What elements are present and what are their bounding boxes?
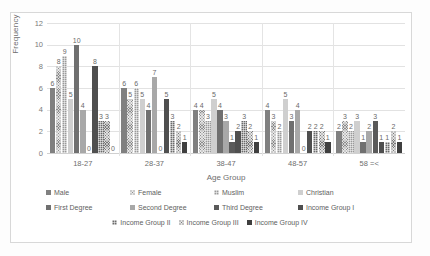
bar[interactable] [247,131,252,153]
bar[interactable] [241,121,246,154]
bar-column[interactable]: 5 [211,23,216,153]
bar[interactable] [235,131,240,153]
bar[interactable] [277,131,282,153]
bar-column[interactable]: 2 [235,23,240,153]
bar[interactable] [176,131,181,153]
bar[interactable] [164,99,169,153]
bar[interactable] [50,88,55,153]
legend-item[interactable]: Income Group IV [247,219,308,226]
bar-column[interactable]: 3 [289,23,294,153]
bar[interactable] [391,131,396,153]
bar-column[interactable]: 1 [325,23,330,153]
bar[interactable] [348,131,353,153]
bar[interactable] [289,121,294,154]
bar-column[interactable]: 7 [152,23,157,153]
bar-column[interactable]: 3 [342,23,347,153]
bar-column[interactable]: 4 [217,23,222,153]
bar-column[interactable]: 9 [62,23,67,153]
bar[interactable] [385,142,390,153]
bar-column[interactable]: 0 [110,23,115,153]
bar-column[interactable]: 4 [295,23,300,153]
bar-column[interactable]: 2 [313,23,318,153]
bar[interactable] [140,99,145,153]
bar[interactable] [313,131,318,153]
bar[interactable] [170,121,175,154]
bar-column[interactable]: 1 [379,23,384,153]
bar-column[interactable]: 3 [104,23,109,153]
bar[interactable] [354,121,359,154]
bar-column[interactable]: 3 [354,23,359,153]
bar[interactable] [62,56,67,154]
legend-item[interactable]: Muslim [214,189,298,196]
bar-column[interactable]: 4 [199,23,204,153]
bar[interactable] [366,131,371,153]
bar[interactable] [342,121,347,154]
bar[interactable] [283,99,288,153]
legend-item[interactable]: Female [130,189,214,196]
bar-column[interactable]: 3 [223,23,228,153]
bar[interactable] [325,142,330,153]
legend-item[interactable]: Income Group I [298,204,382,211]
bar[interactable] [229,142,234,153]
bar[interactable] [223,121,228,154]
bar-column[interactable]: 2 [336,23,341,153]
bar[interactable] [74,45,79,153]
legend-item[interactable]: Income Group III [179,219,239,226]
legend-item[interactable]: Third Degree [214,204,298,211]
bar-column[interactable]: 1 [182,23,187,153]
bar[interactable] [104,121,109,154]
bar-column[interactable]: 2 [277,23,282,153]
bar[interactable] [373,121,378,154]
bar[interactable] [336,131,341,153]
bar-column[interactable]: 3 [205,23,210,153]
legend-item[interactable]: Male [46,189,130,196]
bar-column[interactable]: 8 [56,23,61,153]
bar-column[interactable]: 0 [158,23,163,153]
bar-column[interactable]: 5 [140,23,145,153]
bar-column[interactable]: 3 [170,23,175,153]
bar-column[interactable]: 1 [254,23,259,153]
bar-column[interactable]: 8 [92,23,97,153]
bar[interactable] [211,99,216,153]
legend-item[interactable]: Christian [298,189,382,196]
bar-column[interactable]: 1 [397,23,402,153]
bar-column[interactable]: 1 [229,23,234,153]
bar-column[interactable]: 3 [271,23,276,153]
bar-column[interactable]: 5 [127,23,132,153]
bar[interactable] [193,110,198,153]
bar-column[interactable]: 2 [176,23,181,153]
bar-column[interactable]: 4 [265,23,270,153]
bar[interactable] [80,110,85,153]
bar[interactable] [92,66,97,153]
bar[interactable] [265,110,270,153]
bar-column[interactable]: 2 [307,23,312,153]
bar-column[interactable]: 4 [80,23,85,153]
bar[interactable] [379,142,384,153]
bar-column[interactable]: 4 [146,23,151,153]
bar-column[interactable]: 0 [86,23,91,153]
bar[interactable] [121,88,126,153]
bar-column[interactable]: 3 [241,23,246,153]
bar[interactable] [127,99,132,153]
legend-item[interactable]: First Degree [46,204,130,211]
bar-column[interactable]: 5 [283,23,288,153]
bar-column[interactable]: 2 [319,23,324,153]
legend-item[interactable]: Second Degree [130,204,214,211]
bar[interactable] [217,110,222,153]
bar-column[interactable]: 3 [98,23,103,153]
bar-column[interactable]: 2 [391,23,396,153]
bar-column[interactable]: 0 [301,23,306,153]
bar-column[interactable]: 2 [348,23,353,153]
bar[interactable] [182,142,187,153]
bar-column[interactable]: 4 [193,23,198,153]
legend-item[interactable]: Income Group II [112,219,170,226]
bar-column[interactable]: 3 [373,23,378,153]
bar[interactable] [199,110,204,153]
bar-column[interactable]: 2 [247,23,252,153]
bar-column[interactable]: 10 [74,23,79,153]
bar[interactable] [271,121,276,154]
bar[interactable] [307,131,312,153]
bar[interactable] [397,142,402,153]
bar-column[interactable]: 1 [385,23,390,153]
bar[interactable] [254,142,259,153]
